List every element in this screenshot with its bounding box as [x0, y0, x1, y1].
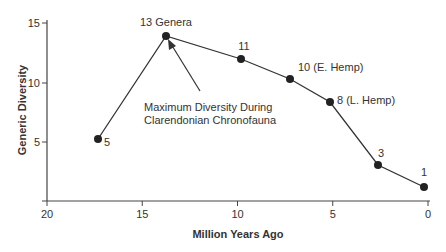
point-label: 11 — [238, 40, 249, 52]
data-point — [237, 55, 245, 63]
data-point — [286, 75, 294, 83]
annotation-line2: Clarendonian Chronofauna — [144, 114, 277, 126]
y-tick-label: 10 — [28, 77, 40, 89]
x-ticks: 20151050 — [41, 201, 431, 220]
line-chart: 51015 20151050 Million Years Ago Generic… — [0, 0, 446, 252]
y-ticks: 51015 — [28, 17, 47, 148]
x-tick-label: 0 — [425, 208, 431, 220]
x-tick-label: 15 — [136, 208, 148, 220]
x-tick-label: 10 — [231, 208, 243, 220]
point-label: 1 — [421, 166, 427, 178]
data-point — [162, 32, 170, 40]
point-label: 8 (L. Hemp) — [337, 94, 395, 106]
annotation-arrow — [171, 44, 200, 91]
y-tick-label: 5 — [34, 136, 40, 148]
chart-container: 51015 20151050 Million Years Ago Generic… — [0, 0, 446, 252]
data-point — [94, 135, 102, 143]
x-axis-label: Million Years Ago — [192, 228, 283, 240]
arrowhead-icon — [168, 39, 176, 50]
point-label: 13 Genera — [140, 16, 193, 28]
point-label: 3 — [378, 147, 384, 159]
point-label: 10 (E. Hemp) — [298, 61, 363, 73]
annotation-line1: Maximum Diversity During — [144, 101, 272, 113]
y-axis-label: Generic Diversity — [16, 64, 28, 155]
x-tick-label: 20 — [41, 208, 53, 220]
point-label: 5 — [104, 136, 110, 148]
x-tick-label: 5 — [330, 208, 336, 220]
data-point — [420, 183, 428, 191]
data-point — [326, 98, 334, 106]
data-point — [374, 161, 382, 169]
y-tick-label: 15 — [28, 17, 40, 29]
